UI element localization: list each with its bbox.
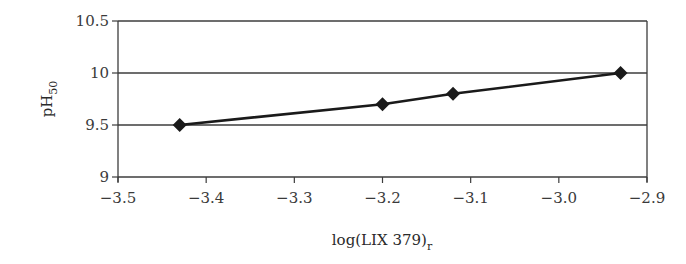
x-tick-label: −3.5 <box>100 189 136 207</box>
data-point-diamond <box>376 97 390 111</box>
x-tick-label: −2.9 <box>629 189 665 207</box>
x-tick-labels: −3.5−3.4−3.3−3.2−3.1−3.0−2.9 <box>100 189 665 207</box>
y-tick-label: 9 <box>99 168 109 186</box>
series-group <box>173 66 628 132</box>
y-tick-label: 10 <box>90 64 109 82</box>
chart: −3.5−3.4−3.3−3.2−3.1−3.0−2.9 99.51010.5 … <box>0 0 686 264</box>
x-tick-label: −3.3 <box>276 189 312 207</box>
data-point-diamond <box>614 66 628 80</box>
data-point-diamond <box>446 87 460 101</box>
y-tick-label: 10.5 <box>76 12 109 30</box>
data-point-diamond <box>173 118 187 132</box>
y-axis-label: pH50 <box>38 81 60 118</box>
x-tick-label: −3.1 <box>452 189 488 207</box>
x-tick-label: −3.2 <box>364 189 400 207</box>
x-axis-label: log(LIX 379)r <box>332 231 433 253</box>
x-tick-label: −3.4 <box>188 189 224 207</box>
y-tick-labels: 99.51010.5 <box>76 12 109 186</box>
y-tick-label: 9.5 <box>85 116 109 134</box>
x-tick-label: −3.0 <box>541 189 577 207</box>
series-line <box>180 73 621 125</box>
